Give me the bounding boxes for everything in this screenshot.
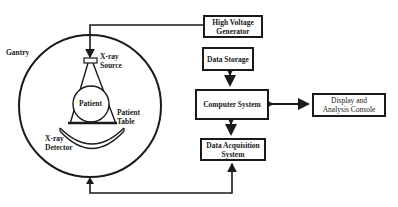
xray-source-label: X-ray Source (100, 52, 122, 70)
high-voltage-generator-box: High VoltageGenerator (203, 15, 263, 38)
data-acquisition-system-box: Data AcquisitionSystem (200, 138, 266, 161)
xray-source-shape (84, 58, 97, 63)
gantry-das-connector (90, 164, 232, 193)
gantry-arrow-head (86, 177, 94, 184)
gantry-label: Gantry (6, 48, 29, 57)
xray-detector-label: X-ray Detector (45, 134, 72, 152)
patient-table-label: Patient Table (117, 108, 140, 126)
patient-label: Patient (79, 99, 102, 108)
display-analysis-console-box: Display andAnalysis Console (312, 93, 386, 117)
data-storage-box: Data Storage (202, 47, 254, 71)
computer-system-box: Computer System (195, 89, 269, 120)
